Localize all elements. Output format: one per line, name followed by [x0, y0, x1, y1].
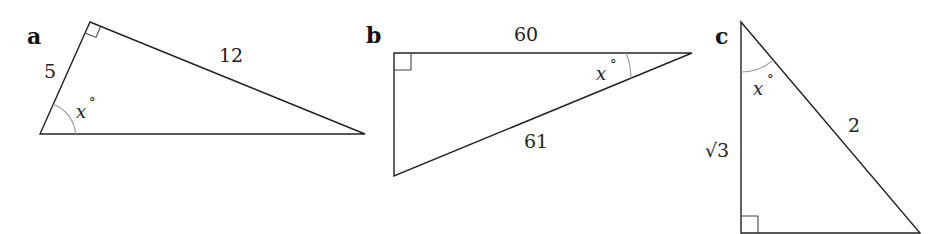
- triangle-a-shape: [40, 22, 365, 134]
- triangle-a: a 5 12 x °: [27, 22, 365, 134]
- triangles-figure: a 5 12 x ° b 60 61 x ° c √3 2 x °: [0, 0, 942, 234]
- angle-arc-b: [626, 53, 631, 78]
- triangle-b-shape: [394, 53, 692, 176]
- side-label-b-60: 60: [514, 23, 538, 45]
- degree-symbol-c: °: [767, 72, 774, 87]
- right-angle-marker-b: [394, 53, 411, 70]
- triangle-b: b 60 61 x °: [366, 22, 692, 176]
- angle-label-b: x: [596, 63, 606, 84]
- side-label-c-2: 2: [848, 114, 860, 136]
- right-angle-marker-c: [741, 216, 758, 233]
- angle-label-a: x: [76, 101, 86, 122]
- angle-label-c: x: [753, 78, 763, 99]
- degree-symbol-b: °: [610, 57, 617, 72]
- panel-label-b: b: [366, 22, 381, 48]
- side-label-b-61: 61: [524, 130, 548, 152]
- side-label-c-sqrt3: √3: [705, 139, 729, 161]
- angle-arc-a: [53, 104, 75, 134]
- panel-label-a: a: [27, 23, 41, 49]
- triangle-c-shape: [741, 22, 920, 233]
- triangle-c: c √3 2 x °: [705, 22, 920, 233]
- degree-symbol-a: °: [89, 95, 96, 110]
- angle-arc-c: [741, 60, 773, 72]
- side-label-a-12: 12: [219, 44, 243, 66]
- side-label-a-5: 5: [44, 60, 56, 82]
- panel-label-c: c: [715, 23, 728, 49]
